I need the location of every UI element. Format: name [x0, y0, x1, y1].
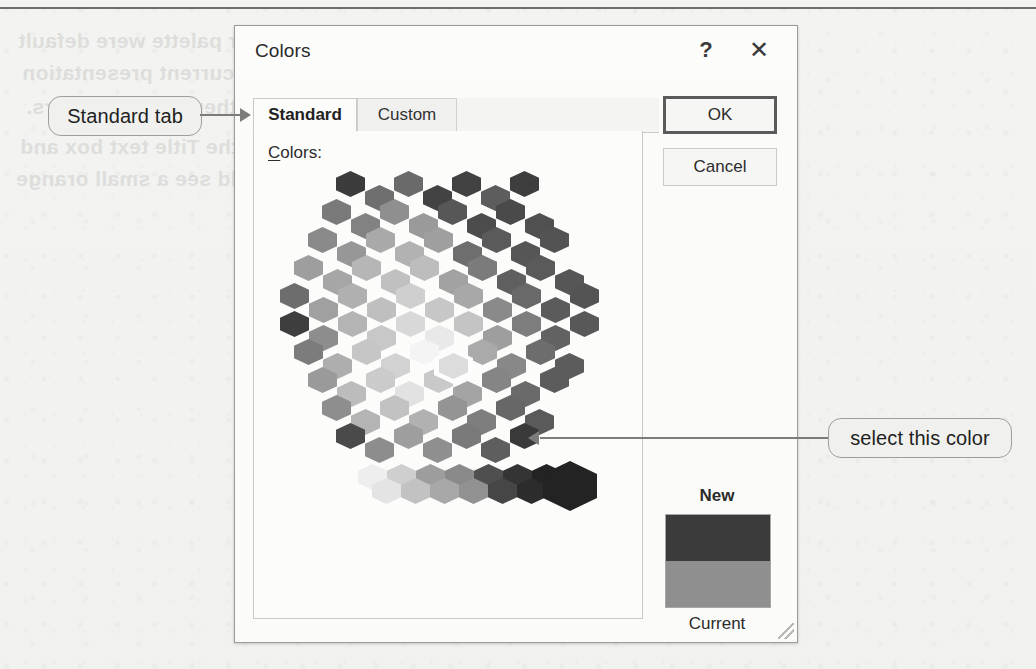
new-color-swatch — [666, 515, 770, 561]
cancel-button[interactable]: Cancel — [663, 148, 777, 186]
current-label: Current — [657, 614, 777, 634]
color-swatch-hex[interactable] — [338, 311, 367, 337]
grayscale-ramp[interactable] — [358, 464, 558, 526]
colors-label-accel: C — [268, 143, 280, 162]
dialog-titlebar: Colors ? ✕ — [235, 26, 797, 76]
color-swatch-hex[interactable] — [394, 171, 423, 197]
color-swatch-hex[interactable] — [280, 283, 309, 309]
ok-button[interactable]: OK — [663, 96, 777, 134]
standard-tab-panel: Colors: — [253, 131, 643, 619]
tab-strip-filler — [457, 98, 659, 133]
color-swatch-hex[interactable] — [294, 255, 323, 281]
callout-leader-line — [200, 114, 244, 116]
color-swatch-hex[interactable] — [280, 311, 309, 337]
page-background: a theme's color palette were default be … — [0, 0, 1036, 669]
resize-grip-icon[interactable] — [778, 623, 794, 639]
color-swatch-hex[interactable] — [425, 297, 454, 323]
color-swatch-hex[interactable] — [365, 437, 394, 463]
callout-arrow-icon — [528, 431, 539, 445]
color-swatch-hex[interactable] — [481, 437, 510, 463]
color-swatch-hex[interactable] — [322, 199, 351, 225]
color-preview: New Current — [657, 486, 777, 646]
help-icon[interactable]: ? — [691, 35, 721, 65]
preview-swatches — [665, 514, 771, 608]
colors-label-rest: olors: — [280, 143, 322, 162]
current-color-swatch — [666, 561, 770, 607]
close-icon[interactable]: ✕ — [743, 35, 775, 65]
color-swatch-hex[interactable] — [396, 311, 425, 337]
callout-arrow-icon — [240, 108, 251, 122]
color-swatch-hex[interactable] — [308, 227, 337, 253]
color-swatch-hex[interactable] — [512, 311, 541, 337]
colors-label: Colors: — [268, 143, 322, 163]
color-honeycomb[interactable] — [256, 171, 640, 451]
callout-leader-line — [540, 437, 828, 439]
tab-custom[interactable]: Custom — [357, 98, 457, 132]
color-swatch-hex[interactable] — [452, 171, 481, 197]
color-swatch-hex[interactable] — [423, 437, 452, 463]
color-swatch-hex[interactable] — [541, 297, 570, 323]
tab-standard[interactable]: Standard — [253, 98, 357, 132]
colors-dialog: Colors ? ✕ Standard Custom Colors: OK Ca… — [234, 25, 798, 643]
tab-strip: Standard Custom — [253, 98, 659, 132]
new-label: New — [657, 486, 777, 506]
color-swatch-hex[interactable] — [454, 311, 483, 337]
callout-standard-tab: Standard tab — [48, 96, 202, 136]
color-swatch-hex[interactable] — [510, 171, 539, 197]
color-swatch-hex[interactable] — [367, 297, 396, 323]
page-rule — [0, 7, 1036, 9]
color-swatch-hex[interactable] — [483, 297, 512, 323]
dialog-title: Colors — [255, 40, 311, 62]
color-swatch-hex[interactable] — [336, 171, 365, 197]
callout-select-color: select this color — [828, 418, 1012, 458]
color-swatch-hex[interactable] — [309, 297, 338, 323]
color-swatch-hex[interactable] — [570, 311, 599, 337]
